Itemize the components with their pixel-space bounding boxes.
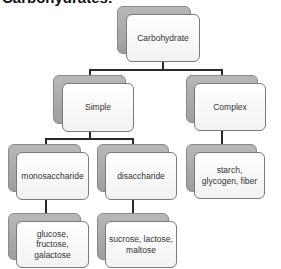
complex-examples-label: starch, glycogen, fiber: [198, 165, 261, 186]
simple-node: Simple: [62, 83, 134, 132]
mono-examples-node: glucose, fructose, galactose: [16, 221, 89, 268]
disaccharide-node: disaccharide: [105, 152, 177, 200]
disaccharide-node-label: disaccharide: [117, 171, 165, 182]
connector-level1-horizontal: [89, 69, 222, 71]
connector-di-down: [132, 200, 134, 214]
monosaccharide-node: monosaccharide: [16, 152, 89, 200]
diagram-title: Carbohydrates:: [2, 0, 113, 6]
monosaccharide-node-label: monosaccharide: [21, 171, 83, 182]
root-node-label: Carbohydrate: [137, 33, 189, 44]
complex-examples-node: starch, glycogen, fiber: [194, 152, 265, 199]
di-examples-node: sucrose, lactose, maltose: [105, 221, 177, 268]
di-examples-label: sucrose, lactose, maltose: [109, 234, 173, 255]
root-node: Carbohydrate: [126, 14, 200, 62]
mono-examples-label: glucose, fructose, galactose: [20, 229, 85, 261]
complex-node-label: Complex: [213, 102, 247, 113]
simple-node-label: Simple: [85, 102, 111, 113]
connector-level2-horizontal: [45, 138, 133, 140]
connector-complex-down: [221, 131, 223, 145]
complex-node: Complex: [194, 83, 266, 131]
connector-mono-down: [45, 200, 47, 214]
